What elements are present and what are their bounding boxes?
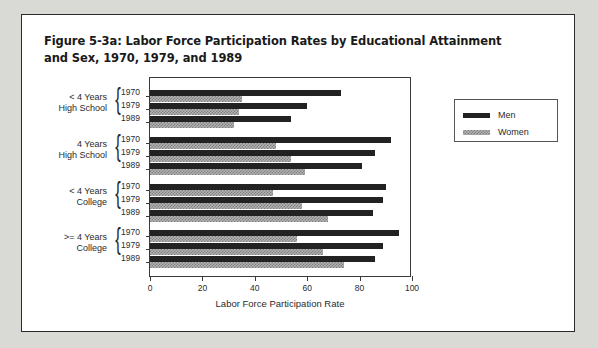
- x-axis-title: Labor Force Participation Rate: [216, 298, 345, 309]
- bar-women: [150, 96, 242, 102]
- group-brace: {: [115, 84, 121, 114]
- group-brace: {: [115, 178, 121, 208]
- legend-item: Men: [463, 110, 516, 120]
- x-axis-tick: [360, 276, 361, 281]
- bar-women: [150, 169, 305, 175]
- year-label: 1979: [121, 100, 140, 110]
- bar-women: [150, 122, 234, 128]
- category-label: 4 Years High School: [37, 139, 107, 162]
- bar-women: [150, 262, 344, 268]
- x-axis-tick: [255, 276, 256, 281]
- legend-swatch: [463, 113, 490, 118]
- chart-legend: MenWomen: [454, 99, 558, 142]
- bar-women: [150, 190, 273, 196]
- year-label: 1989: [121, 113, 140, 123]
- x-axis-tick: [202, 276, 203, 281]
- year-label: 1989: [121, 207, 140, 217]
- figure-frame: Figure 5-3a: Labor Force Participation R…: [21, 14, 575, 332]
- x-axis-tick: [412, 276, 413, 281]
- bar-women: [150, 156, 291, 162]
- bar-women: [150, 109, 239, 115]
- legend-label: Women: [498, 127, 529, 137]
- x-axis-tick-label: 100: [405, 283, 419, 293]
- x-axis-tick-label: 80: [355, 283, 364, 293]
- group-brace: {: [115, 131, 121, 161]
- bar-women: [150, 249, 323, 255]
- year-label: 1979: [121, 194, 140, 204]
- x-axis-tick-label: 60: [302, 283, 311, 293]
- category-label: < 4 Years College: [37, 186, 107, 209]
- year-label: 1970: [121, 134, 140, 144]
- x-axis-tick: [150, 276, 151, 281]
- bar-women: [150, 216, 328, 222]
- x-axis-tick-label: 0: [148, 283, 153, 293]
- year-label: 1979: [121, 147, 140, 157]
- year-label: 1970: [121, 227, 140, 237]
- year-label: 1989: [121, 160, 140, 170]
- year-label: 1989: [121, 253, 140, 263]
- legend-swatch: [463, 130, 490, 135]
- x-axis-tick: [307, 276, 308, 281]
- x-axis-tick-label: 40: [250, 283, 259, 293]
- year-label: 1970: [121, 87, 140, 97]
- figure-title: Figure 5-3a: Labor Force Participation R…: [44, 33, 524, 66]
- legend-label: Men: [498, 110, 516, 120]
- bar-women: [150, 236, 297, 242]
- year-label: 1979: [121, 240, 140, 250]
- chart-plot-area: 020406080100Labor Force Participation Ra…: [149, 77, 411, 277]
- x-axis-tick-label: 20: [198, 283, 207, 293]
- category-label: < 4 Years High School: [37, 92, 107, 115]
- bar-women: [150, 143, 276, 149]
- bar-women: [150, 203, 302, 209]
- category-label: >= 4 Years College: [37, 232, 107, 255]
- year-label: 1970: [121, 181, 140, 191]
- group-brace: {: [115, 224, 121, 254]
- legend-item: Women: [463, 127, 529, 137]
